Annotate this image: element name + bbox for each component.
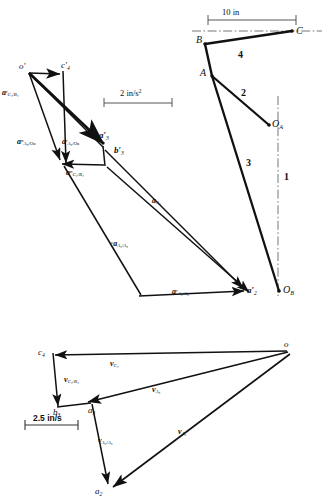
vec-v-A3-sub: A₃ xyxy=(156,389,161,394)
point-label-c4-prime-sub: 4 xyxy=(67,65,70,71)
point-label-a3-sub: 3 xyxy=(93,410,96,416)
joint-OB xyxy=(277,289,281,293)
point-label-OB: OB xyxy=(283,285,294,296)
point-label-a2-prime-sub: 2 xyxy=(254,290,257,296)
vector-ar-A2A3 xyxy=(139,291,244,296)
vector-an-C4B4 xyxy=(62,164,104,165)
figure-canvas xyxy=(0,0,329,504)
link-label-1: 1 xyxy=(284,172,289,182)
point-label-b3-prime-base: b′ xyxy=(114,145,121,155)
acceleration-scale-label: 2 in/s2 xyxy=(120,89,141,98)
vector-v-C4 xyxy=(55,351,287,355)
vector-label-an-C4B4: anC₄/B₄ xyxy=(66,169,84,178)
vector-at-C4B4 xyxy=(29,73,60,74)
joint-OA xyxy=(267,123,271,127)
point-label-A: A xyxy=(200,68,206,78)
point-label-c4: c4 xyxy=(38,348,45,358)
point-label-o-prime: o′ xyxy=(19,62,25,71)
point-label-a2-prime: a′2 xyxy=(247,286,257,296)
mechanism-scale-label: 10 in xyxy=(222,8,239,17)
joint-B xyxy=(203,42,206,45)
point-label-OB-sub: B xyxy=(290,289,294,296)
vector-label-v-C4B4: vC₄/B₄ xyxy=(64,376,79,385)
link-3-member xyxy=(212,76,279,291)
point-label-a3-prime-sub: 3 xyxy=(106,135,109,141)
vector-b3-a3-velocity xyxy=(57,403,91,407)
point-label-a3-prime-base: a′ xyxy=(99,130,106,140)
acceleration-scale-bar xyxy=(104,98,172,107)
vec-a-A2-sub: A₂ xyxy=(156,200,161,205)
point-label-OA: OA xyxy=(272,119,283,130)
vector-label-ac-A2A3: caA₂/A₃ xyxy=(111,240,128,249)
vec-an-C4B4-sub: C₄/B₄ xyxy=(72,172,83,177)
vec-v-A2-sub: A₂ xyxy=(182,431,187,436)
vector-label-v-A3: vA₃ xyxy=(152,386,160,395)
vector-c4-down xyxy=(63,71,66,163)
vector-label-an-A3OB: anA₃/Oʙ xyxy=(17,138,35,147)
vec-v-C4B4-sub: C₄/B₄ xyxy=(68,379,79,384)
point-label-c4-sub: 4 xyxy=(42,352,45,358)
point-label-B: B xyxy=(196,35,202,45)
point-label-OA-sub: A xyxy=(279,123,283,130)
link-label-3: 3 xyxy=(246,158,251,168)
point-label-a2: a2 xyxy=(95,487,102,497)
vector-a-A2 xyxy=(105,150,243,288)
acceleration-scale-text: 2 in/s xyxy=(120,88,139,98)
point-label-a3-prime: a′3 xyxy=(99,131,109,141)
vector-ar-tail-line xyxy=(64,166,141,295)
link-4-member xyxy=(205,31,292,44)
vec-v-A2A3-sub: A₂/A₃ xyxy=(102,440,113,445)
vector-label-ar-A2A3: arA₂/A₃ xyxy=(172,288,189,297)
vector-label-v-C4: vC₄ xyxy=(110,360,119,369)
joint-C xyxy=(290,29,293,32)
point-label-o-velocity: o xyxy=(284,340,289,349)
vector-label-at-A3OB: atA₃/Oʙ xyxy=(62,138,79,147)
point-label-b3-prime: b′3 xyxy=(114,146,124,156)
joint-A xyxy=(210,74,213,77)
point-label-b3-prime-sub: 3 xyxy=(121,150,124,156)
vec-at-A3OB-sub: A₃/Oʙ xyxy=(67,141,79,146)
point-label-a2-sub: 2 xyxy=(100,491,103,497)
point-label-c4-prime: c′4 xyxy=(61,61,70,71)
vec-at-C4B4-sub: C₄/B₄ xyxy=(7,92,18,97)
vector-v-C4B4 xyxy=(53,353,58,406)
velocity-scale-label: 2.5 in/s xyxy=(33,414,62,423)
vector-a-A3-secondary xyxy=(29,73,103,147)
vector-label-v-A2A3: vA₂/A₃ xyxy=(98,437,112,446)
link-label-4: 4 xyxy=(238,50,243,60)
vector-b3-a3 xyxy=(103,146,105,166)
point-label-a2-prime-base: a′ xyxy=(247,285,254,295)
link-label-2: 2 xyxy=(241,88,246,98)
vec-ar-A2A3-sub: A₂/A₃ xyxy=(178,291,189,296)
vec-an-A3OB-sub: A₃/Oʙ xyxy=(23,141,35,146)
acceleration-scale-exponent: 2 xyxy=(139,88,142,94)
point-label-a3: a3 xyxy=(88,406,95,416)
point-label-C: C xyxy=(296,26,303,36)
vec-ac-A2A3-sub: A₂/A₃ xyxy=(117,243,128,248)
vec-v-C4-sub: C₄ xyxy=(114,363,119,368)
vector-label-a-A2: aA₂ xyxy=(152,197,161,206)
vector-label-v-A2: vA₂ xyxy=(178,428,186,437)
vector-label-at-C4B4: atC₄/B₄ xyxy=(2,89,19,98)
